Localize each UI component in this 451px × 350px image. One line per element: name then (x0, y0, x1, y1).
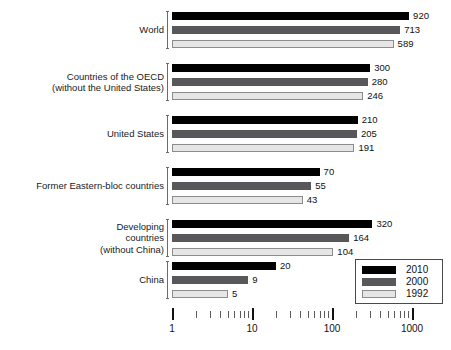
group-brace (167, 115, 168, 153)
category-label: Countries of the OECD (without the Unite… (4, 71, 164, 94)
axis-major-tick (172, 308, 174, 320)
axis-tick-label: 10 (246, 323, 257, 334)
chart-group: Countries of the OECD (without the Unite… (0, 64, 451, 100)
bar-2000 (172, 276, 248, 284)
group-brace (167, 261, 168, 299)
bar-2010 (172, 168, 320, 176)
axis-tick-label: 1000 (401, 323, 423, 334)
bar-value-label: 210 (362, 114, 378, 125)
chart-group: World920713589 (0, 12, 451, 48)
group-brace (167, 219, 168, 257)
group-brace (167, 11, 168, 49)
legend-label: 1992 (406, 288, 428, 299)
axis-minor-tick (404, 311, 405, 318)
bar-value-label: 589 (398, 38, 414, 49)
bar-value-label: 43 (307, 194, 318, 205)
chart-group: Former Eastern-bloc countries705543 (0, 168, 451, 204)
axis-minor-tick (328, 311, 329, 318)
bar-1992 (172, 248, 333, 256)
bar-1992 (172, 290, 228, 298)
bar-value-label: 5 (232, 288, 237, 299)
legend-label: 2010 (406, 264, 428, 275)
axis-minor-tick (308, 311, 309, 318)
bar-1992 (172, 92, 363, 100)
legend-item: 2000 (362, 277, 438, 287)
axis-minor-tick (320, 311, 321, 318)
bar-1992 (172, 196, 303, 204)
log-bar-chart: World920713589Countries of the OECD (wit… (0, 0, 451, 350)
category-label: Developing countries (without China) (4, 221, 164, 256)
axis-minor-tick (300, 311, 301, 318)
category-label: China (4, 274, 164, 286)
legend-swatch (362, 278, 396, 286)
legend-swatch (362, 266, 396, 274)
group-brace (167, 167, 168, 205)
chart-legend: 201020001992 (355, 259, 443, 304)
bar-2010 (172, 12, 409, 20)
axis-major-tick (332, 308, 334, 320)
axis-minor-tick (240, 311, 241, 318)
bar-2000 (172, 234, 349, 242)
bar-value-label: 9 (252, 274, 257, 285)
chart-group: Developing countries (without China)3201… (0, 220, 451, 256)
axis-minor-tick (276, 311, 277, 318)
axis-minor-tick (220, 311, 221, 318)
bar-2010 (172, 262, 276, 270)
bar-value-label: 280 (372, 76, 388, 87)
axis-minor-tick (228, 311, 229, 318)
axis-minor-tick (370, 311, 371, 318)
bar-1992 (172, 144, 354, 152)
legend-label: 2000 (406, 276, 428, 287)
bar-value-label: 920 (413, 10, 429, 21)
axis-minor-tick (248, 311, 249, 318)
axis-minor-tick (356, 311, 357, 318)
axis-major-tick (412, 308, 414, 320)
bar-1992 (172, 40, 394, 48)
bar-value-label: 300 (374, 62, 390, 73)
axis-minor-tick (408, 311, 409, 318)
category-label: Former Eastern-bloc countries (4, 180, 164, 192)
chart-group: United States210205191 (0, 116, 451, 152)
axis-tick-label: 100 (324, 323, 341, 334)
axis-minor-tick (380, 311, 381, 318)
axis-minor-tick (324, 311, 325, 318)
bar-2010 (172, 64, 370, 72)
category-label: World (4, 24, 164, 36)
axis-minor-tick (314, 311, 315, 318)
axis-minor-tick (244, 311, 245, 318)
bar-value-label: 246 (367, 90, 383, 101)
bar-value-label: 70 (324, 166, 335, 177)
axis-minor-tick (394, 311, 395, 318)
bar-2000 (172, 182, 311, 190)
bar-value-label: 164 (353, 232, 369, 243)
bar-value-label: 320 (376, 218, 392, 229)
legend-item: 1992 (362, 289, 438, 299)
bar-value-label: 104 (337, 246, 353, 257)
axis-minor-tick (388, 311, 389, 318)
axis-minor-tick (290, 311, 291, 318)
axis-minor-tick (400, 311, 401, 318)
category-label: United States (4, 128, 164, 140)
bar-value-label: 20 (280, 260, 291, 271)
bar-value-label: 55 (315, 180, 326, 191)
axis-minor-tick (234, 311, 235, 318)
legend-swatch (362, 290, 396, 298)
bar-2010 (172, 116, 358, 124)
group-brace (167, 63, 168, 101)
bar-2000 (172, 26, 400, 34)
axis-minor-tick (196, 311, 197, 318)
legend-item: 2010 (362, 265, 438, 275)
axis-major-tick (252, 308, 254, 320)
bar-2010 (172, 220, 372, 228)
x-axis-log-scale: 1101001000 (0, 308, 451, 342)
axis-minor-tick (210, 311, 211, 318)
bar-2000 (172, 78, 368, 86)
axis-tick-label: 1 (169, 323, 175, 334)
bar-value-label: 191 (358, 142, 374, 153)
bar-2000 (172, 130, 357, 138)
bar-value-label: 713 (404, 24, 420, 35)
bar-value-label: 205 (361, 128, 377, 139)
